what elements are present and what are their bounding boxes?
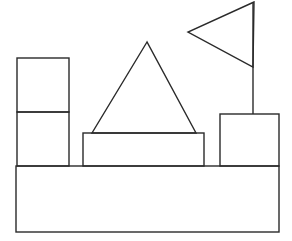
middle-rect	[83, 133, 204, 166]
base-rect	[16, 166, 279, 232]
shapes-diagram	[0, 0, 292, 241]
middle-triangle	[92, 42, 196, 133]
left-box-bottom	[17, 112, 69, 166]
flag-triangle	[188, 2, 254, 67]
left-box-top	[17, 58, 69, 112]
right-box	[220, 114, 279, 166]
